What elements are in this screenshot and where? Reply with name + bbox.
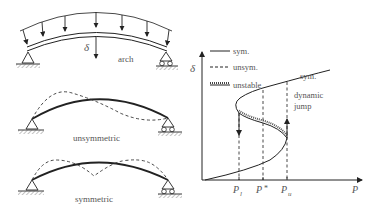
symmetric-diagram: symmetric <box>18 160 182 204</box>
svg-text:P: P <box>232 184 239 195</box>
symmetric-label: symmetric <box>75 194 113 204</box>
tick-Pu: P u <box>280 184 292 198</box>
legend-unsym: unsym. <box>233 62 258 72</box>
annotation-dynamic: dynamic <box>294 90 323 100</box>
legend-sym: sym. <box>233 46 249 56</box>
y-axis-label: δ <box>190 62 196 74</box>
deflection-symbol: δ <box>84 41 90 53</box>
unsymmetric-diagram: unsymmetric <box>18 92 182 143</box>
svg-text:*: * <box>264 184 268 193</box>
arch-diagram: δ arch <box>16 12 178 70</box>
figure-canvas: δ arch uns <box>0 0 370 216</box>
pin-support-icon <box>18 180 44 195</box>
x-axis-label: P <box>351 184 358 195</box>
curve-label-sym: sym. <box>300 71 316 81</box>
curve-lower-branch <box>205 138 287 180</box>
arch-label: arch <box>118 54 134 64</box>
tick-Pstar: P * <box>255 184 268 195</box>
annotation-jump: jump <box>293 101 311 111</box>
pin-support-icon <box>16 52 40 68</box>
svg-text:P: P <box>255 184 262 195</box>
legend-unstable: unstable <box>233 80 262 90</box>
svg-text:l: l <box>240 190 242 198</box>
legend: sym. unsym. unstable <box>210 46 262 90</box>
tick-Pl: P l <box>232 184 242 198</box>
roller-support-icon <box>158 180 182 198</box>
pin-support-icon <box>18 119 44 134</box>
unsymmetric-label: unsymmetric <box>73 133 120 143</box>
svg-text:u: u <box>288 190 292 198</box>
roller-support-icon <box>158 118 182 136</box>
load-deflection-plot: δ P sym. unsym. unstable sym. dynamic ju… <box>190 46 362 198</box>
roller-support-icon <box>156 52 178 70</box>
svg-text:P: P <box>280 184 287 195</box>
